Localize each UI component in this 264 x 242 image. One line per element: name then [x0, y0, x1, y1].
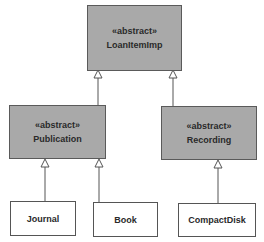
- class-loanitemimp: «abstract» LoanItemImp: [87, 5, 182, 71]
- inheritance-arrow-icon: [95, 159, 103, 167]
- inheritance-arrow-icon: [214, 160, 222, 168]
- stereotype-label: «abstract»: [112, 24, 157, 38]
- class-name: Book: [114, 213, 137, 227]
- class-name: LoanItemImp: [106, 38, 162, 52]
- inheritance-arrow-icon: [41, 159, 49, 167]
- class-journal: Journal: [10, 201, 76, 236]
- class-name: Journal: [27, 212, 60, 226]
- inheritance-arrow-icon: [94, 70, 102, 78]
- class-book: Book: [93, 202, 158, 237]
- stereotype-label: «abstract»: [186, 119, 231, 133]
- inheritance-arrow-icon: [169, 70, 177, 78]
- class-recording: «abstract» Recording: [161, 106, 257, 160]
- class-publication: «abstract» Publication: [9, 105, 106, 159]
- class-name: Recording: [187, 133, 232, 147]
- class-compactdisk: CompactDisk: [178, 203, 256, 237]
- stereotype-label: «abstract»: [35, 118, 80, 132]
- class-name: CompactDisk: [188, 213, 246, 227]
- class-name: Publication: [33, 132, 82, 146]
